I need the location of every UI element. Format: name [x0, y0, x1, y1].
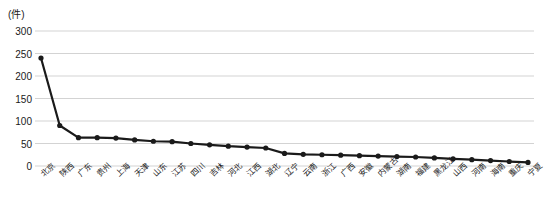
- x-axis-tick-label: 浙江: [319, 160, 338, 179]
- x-axis-tick-label: 山东: [150, 160, 169, 179]
- x-axis-tick-label: 四川: [188, 160, 207, 179]
- x-axis-tick-label: 云南: [300, 160, 319, 179]
- x-axis-tick-label: 上海: [113, 160, 132, 179]
- x-axis-tick-label: 河南: [469, 160, 488, 179]
- x-axis-tick-label: 河北: [225, 160, 244, 179]
- x-axis-tick-label: 广西: [338, 160, 357, 179]
- x-axis-tick-label: 湖北: [263, 160, 282, 179]
- x-axis-tick-label: 内蒙古: [375, 154, 400, 179]
- x-axis-tick-label: 辽宁: [282, 160, 301, 179]
- x-axis-tick-label: 安徽: [356, 160, 375, 179]
- x-axis-tick-label: 天津: [132, 160, 151, 179]
- x-axis-tick-label: 江苏: [169, 160, 188, 179]
- x-axis-tick-label: 江西: [244, 160, 263, 179]
- x-axis-tick-label: 北京: [38, 160, 57, 179]
- x-axis-tick-label: 福建: [413, 160, 432, 179]
- x-axis-tick-label: 吉林: [207, 160, 226, 179]
- x-axis-tick-label: 海南: [488, 160, 507, 179]
- x-axis-tick-label: 陕西: [57, 160, 76, 179]
- x-axis-tick-label: 宁夏: [525, 160, 544, 179]
- x-axis-tick-label: 广东: [75, 160, 94, 179]
- x-axis-tick-label: 黑龙江: [431, 154, 456, 179]
- x-axis-tick-label: 重庆: [506, 160, 525, 179]
- x-axis-tick-label: 贵州: [94, 160, 113, 179]
